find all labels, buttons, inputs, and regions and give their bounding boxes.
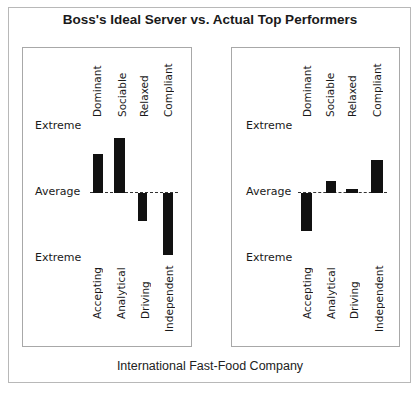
trait-label-independent: Independent <box>373 269 385 332</box>
trait-label-analytical: Analytical <box>115 269 127 319</box>
trait-label-compliant: Compliant <box>371 67 383 117</box>
trait-label-dominant: Dominant <box>91 67 103 117</box>
trait-label-sociable: Sociable <box>116 67 128 117</box>
trait-label-relaxed: Relaxed <box>346 67 358 117</box>
trait-label-independent: Independent <box>163 269 175 332</box>
panel-boss-ideal: Dominant Sociable Relaxed Compliant Extr… <box>22 47 192 347</box>
trait-label-analytical: Analytical <box>325 269 337 319</box>
axis-label-top-extreme: Extreme <box>35 119 81 132</box>
axis-label-bottom-extreme: Extreme <box>246 251 292 264</box>
bar-relaxed <box>346 189 358 193</box>
trait-label-driving: Driving <box>348 269 360 319</box>
trait-label-driving: Driving <box>139 269 151 319</box>
panel-top-performers: Dominant Sociable Relaxed Compliant Extr… <box>231 47 400 347</box>
bar-independent <box>163 193 173 255</box>
trait-label-sociable: Sociable <box>324 67 336 117</box>
bar-sociable <box>326 181 336 193</box>
axis-label-average: Average <box>246 185 291 198</box>
bar-sociable <box>114 138 125 193</box>
trait-label-relaxed: Relaxed <box>138 67 150 117</box>
trait-label-accepting: Accepting <box>91 269 103 319</box>
bar-accepting <box>301 193 312 231</box>
trait-label-accepting: Accepting <box>301 269 313 319</box>
trait-label-dominant: Dominant <box>301 67 313 117</box>
chart-title: Boss's Ideal Server vs. Actual Top Perfo… <box>0 12 420 27</box>
axis-label-average: Average <box>35 185 80 198</box>
bar-compliant <box>371 160 383 193</box>
axis-label-top-extreme: Extreme <box>246 119 292 132</box>
bar-driving <box>138 193 147 221</box>
chart-caption: International Fast-Food Company <box>0 359 420 373</box>
bar-dominant <box>93 154 103 193</box>
axis-label-bottom-extreme: Extreme <box>35 251 81 264</box>
trait-label-compliant: Compliant <box>162 67 174 117</box>
